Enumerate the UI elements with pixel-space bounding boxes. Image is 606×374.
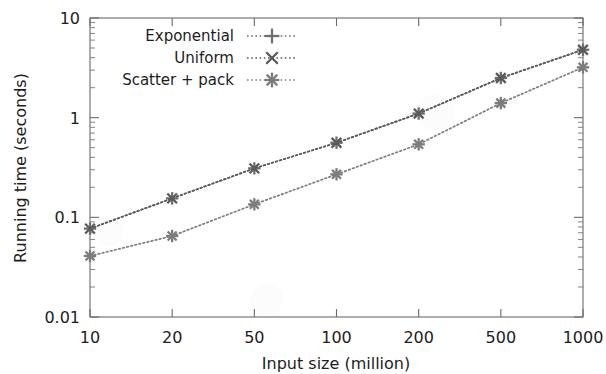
x-tick-label: 50 xyxy=(244,328,264,347)
asterisk-marker xyxy=(166,230,178,242)
asterisk-marker xyxy=(84,250,96,262)
asterisk-marker xyxy=(265,73,280,88)
asterisk-marker xyxy=(495,97,507,109)
y-tick-label: 0.01 xyxy=(44,308,80,327)
x-axis-title: Input size (million) xyxy=(262,354,410,373)
chart-figure: 1010.10.01 1020501002005001000 Exponenti… xyxy=(0,0,606,374)
x-tick-label: 500 xyxy=(486,328,517,347)
y-axis-title: Running time (seconds) xyxy=(11,73,30,263)
y-tick-label: 10 xyxy=(60,9,80,28)
x-tick-label: 100 xyxy=(321,328,352,347)
asterisk-marker xyxy=(412,138,424,150)
legend-label: Uniform xyxy=(174,49,234,67)
x-tick-label: 10 xyxy=(80,328,100,347)
y-tick-label: 0.1 xyxy=(55,208,80,227)
legend-label: Scatter + pack xyxy=(122,71,234,89)
running-time-log-log-plot: 1010.10.01 1020501002005001000 Exponenti… xyxy=(0,0,606,374)
asterisk-marker xyxy=(330,168,342,180)
legend-label: Exponential xyxy=(145,27,234,45)
y-tick-label: 1 xyxy=(70,109,80,128)
asterisk-marker xyxy=(248,198,260,210)
asterisk-marker xyxy=(577,61,589,73)
x-tick-label: 1000 xyxy=(563,328,604,347)
x-tick-label: 20 xyxy=(162,328,182,347)
x-tick-label: 200 xyxy=(403,328,434,347)
